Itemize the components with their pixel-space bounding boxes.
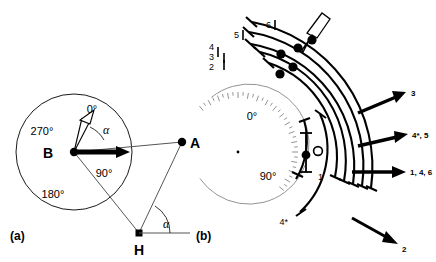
panel-b-label: (b) — [196, 229, 211, 243]
legend-label-1-4-6: 1, 4, 6 — [410, 168, 433, 177]
legend-arrow-4star-5 — [358, 131, 408, 146]
point-a-label: A — [190, 135, 200, 151]
legend-label-3: 3 — [411, 89, 416, 98]
arc-label-3: 3 — [209, 52, 214, 62]
edge-a-h — [139, 142, 182, 233]
dial-label-0: 0° — [247, 110, 258, 122]
point-h-label: H — [134, 242, 144, 258]
panel-a-label: (a) — [10, 229, 25, 243]
bearing-arrow-hollow — [74, 110, 94, 152]
point-b-dot — [70, 148, 78, 156]
angle-label-b: α — [103, 123, 110, 137]
point-b-label: B — [43, 145, 53, 161]
arc-label-4star: 4* — [279, 217, 288, 227]
measurement-arcs — [249, 22, 372, 212]
arc-4-marker — [276, 49, 285, 58]
arc-label-4: 4 — [209, 42, 214, 52]
arc-label-2: 2 — [209, 62, 214, 72]
compass-label-270: 270° — [31, 125, 54, 137]
compass-label-90: 90° — [96, 167, 113, 179]
dial-label-90: 90° — [260, 170, 277, 182]
panel-b: 0° 90° — [196, 13, 433, 254]
point-a-dot — [178, 138, 186, 146]
legend: 3 4*, 5 1, 4, 6 2 — [352, 89, 433, 254]
panel-a: B A H 0° 90° 180° 270° α α (a) — [10, 94, 200, 258]
legend-arrow-2 — [352, 218, 398, 244]
outline-arrow — [302, 13, 330, 52]
angle-arc-b — [90, 127, 104, 140]
edge-b-h — [74, 152, 139, 233]
arc-2-marker — [275, 69, 284, 78]
protractor-ring — [200, 84, 309, 204]
arc-4star-marker — [314, 147, 323, 156]
arc-3-marker — [288, 62, 297, 71]
protractor-ticks — [199, 92, 298, 191]
legend-label-2: 2 — [402, 245, 407, 254]
figure-root: B A H 0° 90° 180° 270° α α (a) 0° 90° — [0, 0, 436, 262]
arc-label-6: 6 — [266, 20, 271, 30]
angle-label-h: α — [163, 217, 170, 231]
dial-centre — [237, 151, 240, 154]
compass-label-0: 0° — [87, 103, 98, 115]
arc-label-5: 5 — [234, 30, 239, 40]
arc-1-marker — [302, 151, 311, 160]
legend-label-4star-5: 4*, 5 — [412, 131, 429, 140]
arc-5-marker — [293, 43, 302, 52]
arc-label-1: 1 — [318, 172, 323, 182]
compass-label-180: 180° — [42, 188, 65, 200]
legend-arrow-1-4-6 — [352, 166, 406, 178]
legend-arrow-3 — [358, 91, 406, 113]
